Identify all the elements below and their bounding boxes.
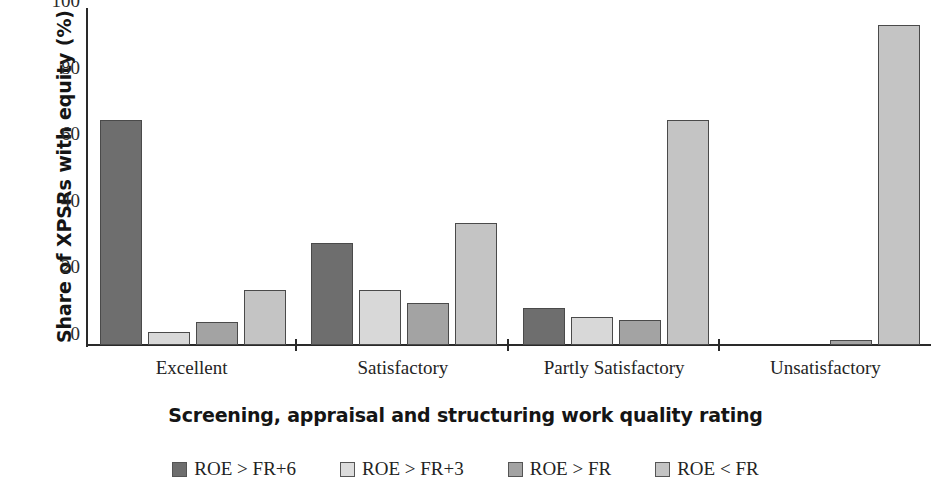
category-label-excellent: Excellent [86, 357, 297, 379]
bar-partly-satisfactory-series-1 [523, 308, 565, 345]
bar-unsatisfactory-series-3 [830, 340, 872, 345]
legend-item-4[interactable]: ROE < FR [655, 458, 758, 480]
legend-item-2[interactable]: ROE > FR+3 [340, 458, 464, 480]
legend-label-1: ROE > FR+6 [194, 458, 296, 480]
category-label-partly-satisfactory: Partly Satisfactory [509, 357, 720, 379]
plot-area [86, 12, 931, 345]
legend-swatch-icon-3 [508, 462, 523, 477]
y-tick-label-60: 60 [34, 124, 80, 143]
bar-satisfactory-series-4 [455, 223, 497, 345]
category-label-satisfactory: Satisfactory [297, 357, 508, 379]
legend-item-3[interactable]: ROE > FR [508, 458, 611, 480]
bar-partly-satisfactory-series-4 [667, 120, 709, 345]
group-separator-3 [718, 339, 720, 351]
y-tick-label-20: 20 [34, 257, 80, 276]
bar-series-container [86, 12, 931, 345]
chart-legend: ROE > FR+6ROE > FR+3ROE > FRROE < FR [0, 456, 931, 482]
category-label-unsatisfactory: Unsatisfactory [720, 357, 931, 379]
legend-item-1[interactable]: ROE > FR+6 [172, 458, 296, 480]
bar-excellent-series-4 [244, 290, 286, 345]
group-separator-2 [507, 339, 509, 351]
legend-swatch-icon-4 [655, 462, 670, 477]
bar-chart-figure: Share of XPSRs with equity (%) 020406080… [0, 0, 931, 486]
bar-satisfactory-series-2 [359, 290, 401, 345]
legend-swatch-icon-2 [340, 462, 355, 477]
bar-excellent-series-3 [196, 322, 238, 345]
bar-partly-satisfactory-series-3 [619, 320, 661, 345]
bar-unsatisfactory-series-4 [878, 25, 920, 345]
y-tick-label-0: 0 [34, 324, 80, 343]
y-tick-label-100: 100 [34, 0, 80, 10]
legend-swatch-icon-1 [172, 462, 187, 477]
bar-satisfactory-series-3 [407, 303, 449, 345]
x-axis-title: Screening, appraisal and structuring wor… [0, 404, 931, 426]
legend-label-4: ROE < FR [677, 458, 758, 480]
bar-satisfactory-series-1 [311, 243, 353, 345]
group-separator-1 [295, 339, 297, 351]
legend-label-3: ROE > FR [530, 458, 611, 480]
y-axis-tick-labels: 020406080100 [30, 0, 80, 333]
bar-excellent-series-2 [148, 332, 190, 345]
bar-excellent-series-1 [100, 120, 142, 345]
legend-label-2: ROE > FR+3 [362, 458, 464, 480]
bar-partly-satisfactory-series-2 [571, 317, 613, 345]
y-tick-label-40: 40 [34, 190, 80, 209]
y-tick-label-80: 80 [34, 57, 80, 76]
